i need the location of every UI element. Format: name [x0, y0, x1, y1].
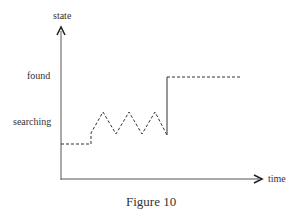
x-axis-label: time: [268, 173, 286, 184]
state-time-diagram: [0, 0, 304, 214]
state-label-searching: searching: [13, 116, 51, 127]
figure-caption: Figure 10: [126, 194, 176, 210]
state-label-found: found: [27, 70, 50, 81]
state-line: [61, 77, 242, 144]
x-axis: [61, 175, 262, 183]
y-axis: [57, 27, 65, 180]
y-axis-label: state: [53, 10, 71, 21]
